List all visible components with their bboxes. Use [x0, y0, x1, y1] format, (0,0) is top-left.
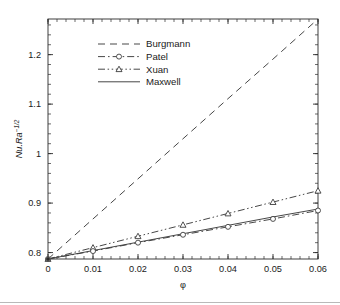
data-marker	[271, 216, 276, 221]
y-tick-label: 1.2	[28, 50, 41, 60]
chart-canvas: 00.010.020.030.040.050.060.80.911.11.2φN…	[0, 0, 340, 305]
data-marker	[117, 54, 122, 59]
y-tick-label: 0.9	[28, 198, 41, 208]
x-tick-label: 0.03	[174, 264, 192, 274]
legend-item-burgmann: Burgmann	[98, 38, 190, 49]
data-marker	[181, 232, 186, 237]
y-tick-labels: 0.80.911.11.2	[28, 50, 41, 258]
figure-container: 00.010.020.030.040.050.060.80.911.11.2φN…	[0, 0, 340, 305]
y-tick-label: 1	[36, 149, 41, 159]
x-tick-label: 0	[45, 264, 50, 274]
legend: BurgmannPatelXuanMaxwell	[98, 38, 190, 87]
data-marker	[315, 188, 321, 193]
y-tick-label: 0.8	[28, 248, 41, 258]
x-tick-label: 0.04	[219, 264, 237, 274]
x-tick-label: 0.01	[84, 264, 102, 274]
legend-item-patel: Patel	[98, 51, 168, 62]
origin-marker	[46, 257, 50, 261]
data-marker	[136, 240, 141, 245]
legend-item-xuan: Xuan	[98, 64, 168, 75]
data-marker	[226, 224, 231, 229]
data-marker	[91, 249, 96, 254]
x-tick-label: 0.06	[309, 264, 327, 274]
data-marker	[316, 208, 321, 213]
x-axis-title: φ	[180, 280, 186, 290]
figure-bottom-rule	[0, 302, 340, 303]
x-tick-labels: 00.010.020.030.040.050.06	[45, 264, 327, 274]
y-axis-title: Nu.Ra−1/2	[13, 119, 24, 158]
x-tick-label: 0.02	[129, 264, 147, 274]
legend-label: Xuan	[146, 64, 168, 75]
x-tick-label: 0.05	[264, 264, 282, 274]
legend-label: Maxwell	[146, 76, 181, 87]
y-tick-label: 1.1	[28, 99, 41, 109]
data-marker	[180, 222, 186, 227]
legend-item-maxwell: Maxwell	[98, 76, 181, 87]
legend-label: Patel	[146, 51, 168, 62]
legend-label: Burgmann	[146, 38, 190, 49]
